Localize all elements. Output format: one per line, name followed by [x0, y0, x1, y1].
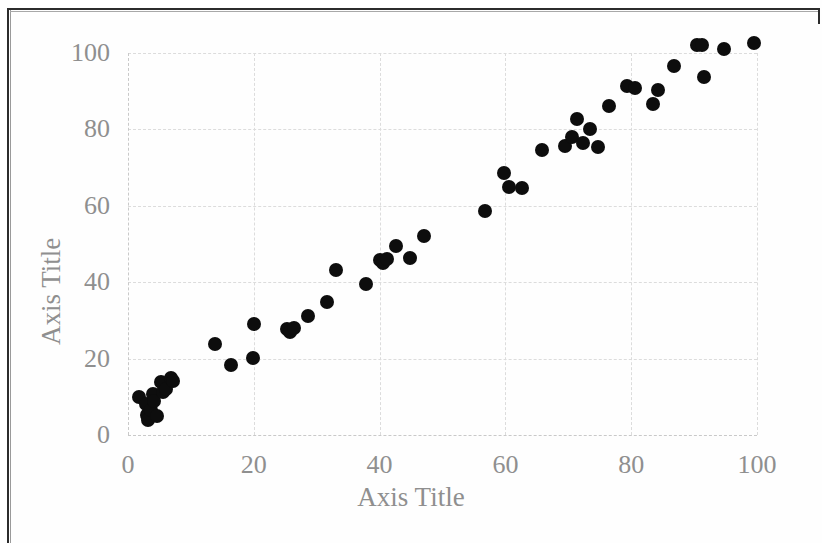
scatter-point [747, 36, 761, 50]
scatter-point [576, 136, 590, 150]
scatter-point [695, 38, 709, 52]
x-axis-tick-label: 0 [122, 452, 135, 478]
scatter-point [224, 358, 238, 372]
scatter-point [150, 409, 164, 423]
scatter-point [359, 277, 373, 291]
scatter-point [628, 81, 642, 95]
scatter-point [320, 295, 334, 309]
scatter-point [478, 204, 492, 218]
scatter-point [497, 166, 511, 180]
gridline-horizontal [128, 282, 757, 283]
gridline-horizontal [128, 435, 757, 436]
gridline-vertical [254, 53, 255, 435]
scatter-point [667, 59, 681, 73]
scatter-point [301, 309, 315, 323]
scatter-point [389, 239, 403, 253]
scatter-chart: 020406080100 020406080100 Axis Title Axi… [0, 0, 822, 543]
scatter-point [646, 97, 660, 111]
x-axis-tick-label: 100 [738, 452, 777, 478]
x-axis-title: Axis Title [0, 484, 822, 511]
y-axis-title: Axis Title [38, 45, 65, 345]
scatter-point [417, 229, 431, 243]
y-axis-tick-label: 20 [10, 346, 110, 372]
plot-area [128, 53, 757, 435]
scatter-point [247, 317, 261, 331]
scatter-point [166, 374, 180, 388]
gridline-vertical [505, 53, 506, 435]
y-axis-tick-label: 0 [10, 422, 110, 448]
scanned-page: 020406080100 020406080100 Axis Title Axi… [0, 0, 822, 543]
x-axis-tick-label: 20 [241, 452, 267, 478]
gridline-horizontal [128, 129, 757, 130]
x-axis-tick-label: 40 [367, 452, 393, 478]
scatter-point [591, 140, 605, 154]
scatter-point [602, 99, 616, 113]
x-axis-tick-label: 80 [618, 452, 644, 478]
scatter-point [208, 337, 222, 351]
scatter-point [515, 181, 529, 195]
gridline-horizontal [128, 206, 757, 207]
gridline-vertical [128, 53, 129, 435]
scatter-point [246, 351, 260, 365]
scatter-point [651, 83, 665, 97]
scatter-point [583, 122, 597, 136]
gridline-horizontal [128, 53, 757, 54]
gridline-horizontal [128, 359, 757, 360]
x-axis-tick-label: 60 [492, 452, 518, 478]
gridline-vertical [380, 53, 381, 435]
scatter-point [329, 263, 343, 277]
scatter-point [697, 70, 711, 84]
scatter-point [535, 143, 549, 157]
scatter-point [287, 321, 301, 335]
scatter-point [717, 42, 731, 56]
scatter-point [570, 112, 584, 126]
gridline-vertical [757, 53, 758, 435]
scatter-point [403, 251, 417, 265]
gridline-vertical [631, 53, 632, 435]
scatter-point [380, 252, 394, 266]
